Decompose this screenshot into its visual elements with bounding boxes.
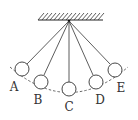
- bob-a: [15, 62, 29, 76]
- label-b: B: [34, 93, 43, 107]
- label-e: E: [117, 81, 126, 95]
- bob-b: [34, 75, 48, 89]
- label-a: A: [9, 80, 19, 94]
- label-c: C: [64, 100, 73, 114]
- bob-e: [108, 63, 122, 77]
- ceiling: [38, 13, 104, 20]
- pendulum-diagram: A B C D E: [0, 0, 138, 120]
- bob-d: [89, 75, 103, 89]
- label-d: D: [95, 93, 105, 107]
- strings: [27, 21, 110, 82]
- bob-c: [62, 82, 76, 96]
- bobs: [15, 62, 122, 96]
